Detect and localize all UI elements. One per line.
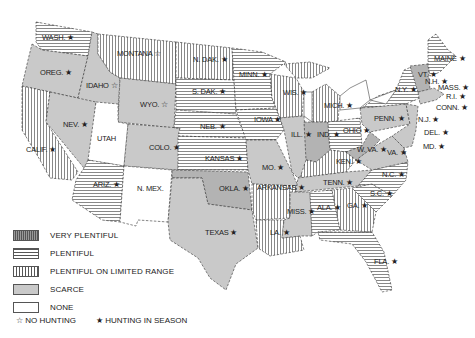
- state-label: OREG. ★: [40, 68, 72, 77]
- state-label: WYO. ☆: [140, 100, 168, 109]
- state-label: MO. ★: [262, 163, 284, 172]
- state-label: MASS. ★: [438, 83, 469, 92]
- state-label: MD. ★: [423, 142, 445, 151]
- state-label: FLA. ★: [374, 257, 398, 266]
- legend-item-very-plentiful: VERY PLENTIFUL: [13, 226, 174, 244]
- key-hunting-in-season: ★ HUNTING IN SEASON: [96, 316, 187, 325]
- state-label: WIS. ★: [283, 88, 307, 97]
- state-label: S. DAK. ★: [192, 87, 226, 96]
- key-label: HUNTING IN SEASON: [105, 316, 187, 325]
- state-label: ARIZ. ★: [93, 180, 120, 189]
- state-label: TENN. ★: [323, 178, 353, 187]
- state-label: OKLA. ★: [219, 184, 249, 193]
- legend-label: PLENTIFUL: [50, 249, 94, 258]
- state-label: ARKANSAS ★: [257, 183, 305, 192]
- state-sdak: [176, 78, 236, 114]
- state-label: NEB. ★: [200, 122, 226, 131]
- state-label: COLO. ★: [149, 143, 180, 152]
- state-ariz: [72, 160, 124, 222]
- state-label: N.J. ★: [418, 115, 439, 124]
- state-label: LA. ★: [270, 228, 290, 237]
- state-label: GA. ★: [347, 201, 368, 210]
- legend: VERY PLENTIFUL PLENTIFUL PLENTIFUL ON LI…: [13, 226, 174, 316]
- swatch-very-plentiful: [13, 230, 39, 241]
- legend-label: SCARCE: [50, 285, 84, 294]
- state-label: KANSAS ★: [205, 154, 243, 163]
- state-label: KEN. ★: [336, 157, 362, 166]
- state-label: N. MEX.: [137, 184, 164, 193]
- state-label: WASH. ★: [42, 33, 74, 42]
- state-label: OHIO ★: [343, 126, 370, 135]
- state-kansas: [178, 136, 248, 170]
- state-label: MINN. ★: [239, 70, 268, 79]
- state-label: IOWA ★: [254, 115, 281, 124]
- state-label: ILL. ★: [291, 130, 312, 139]
- state-label: TEXAS ★: [205, 228, 237, 237]
- state-label: S.C. ★: [370, 189, 393, 198]
- state-label: IND. ★: [317, 130, 340, 139]
- state-label: PENN. ★: [374, 114, 405, 123]
- state-label: MAINE ★: [434, 54, 466, 63]
- swatch-plentiful: [13, 248, 39, 259]
- state-label: N.Y. ★: [395, 85, 417, 94]
- state-label: MISS. ★: [287, 207, 315, 216]
- state-label: W. VA. ★: [357, 145, 387, 154]
- state-label: DEL. ★: [424, 128, 449, 137]
- swatch-scarce: [13, 284, 39, 295]
- filled-star-icon: ★: [96, 316, 103, 325]
- state-label: ALA. ★: [317, 203, 341, 212]
- state-label: VA. ★: [387, 148, 407, 157]
- state-label: IDAHO ☆: [86, 81, 118, 90]
- key-no-hunting: ☆ NO HUNTING: [16, 316, 76, 325]
- state-label: CONN. ★: [436, 103, 468, 112]
- symbol-key: ☆ NO HUNTING ★ HUNTING IN SEASON: [16, 316, 207, 325]
- legend-label: PLENTIFUL ON LIMITED RANGE: [50, 267, 174, 276]
- state-label: MONTANA ☆: [117, 49, 161, 58]
- key-label: NO HUNTING: [25, 316, 76, 325]
- legend-label: NONE: [50, 303, 74, 312]
- legend-label: VERY PLENTIFUL: [50, 231, 118, 240]
- state-label: CALIF. ★: [26, 145, 56, 154]
- state-label: UTAH: [97, 134, 116, 143]
- swatch-plentiful-limited: [13, 266, 39, 277]
- state-label: MICH. ★: [324, 101, 353, 110]
- hollow-star-icon: ☆: [16, 316, 23, 325]
- legend-item-none: NONE: [13, 298, 174, 316]
- state-label: R.I. ★: [446, 92, 466, 101]
- swatch-none: [13, 302, 39, 313]
- legend-item-plentiful-limited: PLENTIFUL ON LIMITED RANGE: [13, 262, 174, 280]
- legend-item-scarce: SCARCE: [13, 280, 174, 298]
- state-nmex: [120, 166, 172, 226]
- state-mich-up: [284, 62, 330, 78]
- state-label: N. DAK. ★: [193, 55, 228, 64]
- state-label: N.C. ★: [382, 170, 405, 179]
- state-label: NEV. ★: [63, 120, 88, 129]
- legend-item-plentiful: PLENTIFUL: [13, 244, 174, 262]
